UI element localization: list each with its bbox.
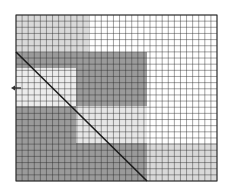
upper-dark-band: [16, 52, 147, 68]
lower-left-dark-block: [16, 106, 76, 143]
center-dark-block: [76, 68, 147, 106]
shaded-regions: [16, 15, 217, 181]
arrow-head: [11, 86, 15, 91]
grid-diagram-canvas: [0, 0, 231, 192]
grid-diagram: [0, 0, 231, 192]
left-light-band: [16, 68, 76, 106]
center-light-block: [76, 106, 147, 143]
bottom-right-light-region: [147, 143, 217, 181]
